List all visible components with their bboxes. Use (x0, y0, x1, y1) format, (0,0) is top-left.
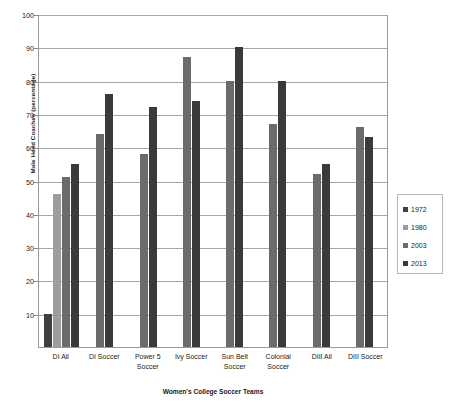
bar (235, 47, 243, 347)
x-tick-label: DI Soccer (83, 352, 127, 386)
x-tick-label: DIII All (300, 352, 344, 386)
bar-group (40, 16, 83, 347)
x-tick-label: Power 5 Soccer (126, 352, 170, 386)
bar (365, 137, 373, 347)
x-tick-label: Sun Belt Soccer (213, 352, 257, 386)
legend: 1972198020032013 (397, 194, 443, 274)
bar (269, 124, 277, 347)
bar-group (170, 16, 213, 347)
legend-label: 1980 (411, 224, 427, 231)
bar-group (127, 16, 170, 347)
bar (53, 194, 61, 347)
y-tick-label: 90 (0, 44, 34, 53)
bar (149, 107, 157, 347)
legend-swatch-icon (403, 225, 408, 230)
bar-groups (40, 16, 386, 347)
y-tick-label: 80 (0, 77, 34, 86)
y-tick-label: 60 (0, 144, 34, 153)
legend-swatch-icon (403, 261, 408, 266)
x-tick-label: DI All (39, 352, 83, 386)
x-tick-label: Colonial Soccer (257, 352, 301, 386)
bar-chart: Male Head Coaches (percentage) 102030405… (0, 0, 461, 411)
bar (313, 174, 321, 347)
bar (278, 81, 286, 347)
legend-item[interactable]: 2013 (403, 254, 442, 272)
legend-label: 2013 (411, 260, 427, 267)
y-tick-label: 10 (0, 310, 34, 319)
x-axis-title: Women's College Soccer Teams (39, 388, 387, 395)
bar (96, 134, 104, 347)
legend-label: 1972 (411, 206, 427, 213)
bar-group (83, 16, 126, 347)
x-tick-label: Ivy Soccer (170, 352, 214, 386)
y-tick-label: 20 (0, 277, 34, 286)
bar (140, 154, 148, 347)
legend-swatch-icon (403, 207, 408, 212)
legend-item[interactable]: 1972 (403, 200, 442, 218)
legend-item[interactable]: 1980 (403, 218, 442, 236)
bar (183, 57, 191, 347)
legend-item[interactable]: 2003 (403, 236, 442, 254)
x-tick-label: DIII Soccer (344, 352, 388, 386)
y-tick-label: 30 (0, 244, 34, 253)
bar (62, 177, 70, 347)
bar (192, 101, 200, 347)
x-axis-tick-labels: DI AllDI SoccerPower 5 SoccerIvy SoccerS… (39, 352, 387, 386)
bar (105, 94, 113, 347)
y-axis-tick-labels: 102030405060708090100 (0, 15, 34, 348)
legend-swatch-icon (403, 243, 408, 248)
bar (71, 164, 79, 347)
bar (44, 314, 52, 347)
bar (356, 127, 364, 347)
y-tick-label: 70 (0, 110, 34, 119)
bar (322, 164, 330, 347)
bar (226, 81, 234, 347)
y-tick-label: 40 (0, 210, 34, 219)
bar-group (343, 16, 386, 347)
bar-group (300, 16, 343, 347)
plot-area (38, 15, 388, 348)
y-tick-label: 50 (0, 177, 34, 186)
y-tick-label: 100 (0, 11, 34, 20)
bar-group (256, 16, 299, 347)
legend-label: 2003 (411, 242, 427, 249)
bar-group (213, 16, 256, 347)
